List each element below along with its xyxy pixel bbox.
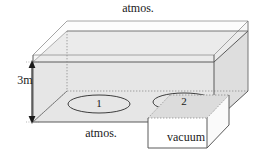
diagram-canvas: atmos. 3m 1 2 atmos. vacuum [0, 0, 276, 158]
label-depth-3m: 3m [12, 74, 38, 86]
label-atmos-bottom: atmos. [58, 127, 144, 139]
label-point-1: 1 [91, 98, 107, 109]
label-vacuum: vacuum [150, 131, 222, 143]
label-atmos-top: atmos. [0, 2, 276, 14]
liquid-surface [33, 31, 248, 62]
label-point-2: 2 [176, 96, 192, 107]
